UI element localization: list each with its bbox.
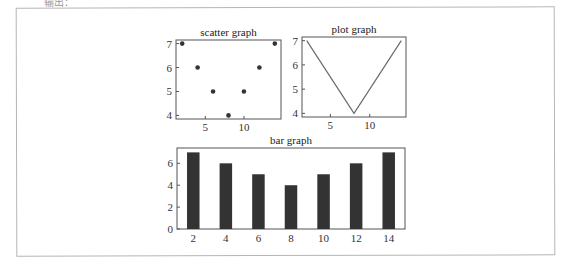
y-tick-label: 6 [293, 59, 299, 71]
axes-frame [176, 40, 281, 119]
chart-title: scatter graph [200, 26, 257, 38]
y-tick-label: 4 [167, 109, 173, 121]
bar-chart: bar graph02462468101214 [168, 134, 406, 244]
bar [317, 174, 330, 229]
x-tick-label: 10 [238, 121, 250, 133]
bar [220, 163, 233, 229]
x-tick-label: 2 [191, 232, 197, 244]
scatter-point [195, 65, 200, 70]
scatter-point [180, 41, 185, 46]
y-tick-label: 6 [167, 62, 173, 74]
y-tick-label: 4 [293, 107, 299, 119]
bar [350, 163, 363, 229]
x-tick-label: 12 [351, 232, 362, 244]
scatter-point [273, 41, 278, 46]
x-tick-label: 6 [256, 232, 262, 244]
x-tick-label: 4 [223, 232, 229, 244]
y-tick-label: 7 [167, 38, 173, 50]
x-tick-label: 10 [364, 119, 376, 131]
x-tick-label: 14 [383, 232, 395, 244]
y-tick-label: 6 [168, 157, 174, 169]
y-tick-label: 7 [293, 35, 299, 47]
scatter-point [257, 65, 262, 70]
y-tick-label: 5 [293, 83, 299, 95]
y-tick-label: 0 [168, 223, 174, 235]
x-tick-label: 5 [328, 119, 334, 131]
bar [285, 185, 298, 229]
y-tick-label: 2 [168, 201, 174, 213]
scatter-point [211, 89, 216, 94]
x-tick-label: 8 [288, 232, 294, 244]
chart-title: plot graph [332, 23, 377, 35]
y-tick-label: 4 [168, 179, 174, 191]
scatter-chart: scatter graph4567510 [167, 26, 282, 133]
line-chart: plot graph4567510 [293, 23, 407, 131]
bar [382, 152, 395, 229]
scatter-point [226, 113, 231, 118]
x-tick-label: 5 [203, 121, 209, 133]
y-tick-label: 5 [167, 85, 173, 97]
bar [252, 174, 265, 229]
bar [187, 152, 200, 229]
chart-canvas: scatter graph4567510plot graph4567510bar… [0, 0, 572, 270]
chart-title: bar graph [270, 134, 312, 146]
data-line [307, 41, 402, 114]
axes-frame [302, 37, 406, 117]
scatter-point [242, 89, 247, 94]
x-tick-label: 10 [318, 232, 330, 244]
